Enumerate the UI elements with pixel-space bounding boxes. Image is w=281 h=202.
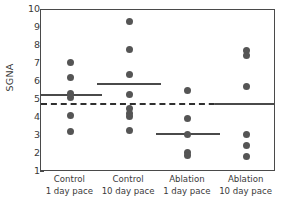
y-tick-5: 5: [22, 94, 40, 104]
x-label-group-2: Ablation1 day pace: [158, 174, 217, 197]
x-label-line2: 1 day pace: [158, 186, 217, 198]
chart-figure: SGNA 12345678910 Control1 day paceContro…: [0, 0, 281, 202]
data-point: [67, 59, 74, 66]
x-label-line1: Control: [54, 174, 85, 184]
data-point: [67, 94, 74, 101]
data-point: [126, 91, 133, 98]
y-tick-4: 4: [22, 112, 40, 122]
data-point: [243, 153, 250, 160]
x-label-group-1: Control10 day pace: [99, 174, 158, 197]
plot-area: [40, 9, 275, 171]
data-point: [126, 18, 133, 25]
x-label-line2: 10 day pace: [99, 186, 158, 198]
data-point: [184, 152, 191, 159]
x-label-line2: 1 day pace: [40, 186, 99, 198]
y-axis-tick-labels: 12345678910: [18, 9, 40, 171]
x-label-line1: Control: [113, 174, 144, 184]
data-point: [184, 115, 191, 122]
data-point: [243, 131, 250, 138]
data-point: [243, 142, 250, 149]
y-tick-3: 3: [22, 130, 40, 140]
y-tick-8: 8: [22, 40, 40, 50]
x-label-line1: Ablation: [169, 174, 204, 184]
data-point: [126, 113, 133, 120]
mean-line-group-3: [215, 103, 275, 105]
data-point: [243, 83, 250, 90]
mean-line-group-1: [97, 83, 161, 85]
x-label-group-3: Ablation10 day pace: [216, 174, 275, 197]
data-point: [184, 87, 191, 94]
y-tick-6: 6: [22, 76, 40, 86]
x-label-line1: Ablation: [228, 174, 263, 184]
data-point: [184, 131, 191, 138]
y-tick-9: 9: [22, 22, 40, 32]
data-point: [126, 71, 133, 78]
y-tick-10: 10: [22, 4, 40, 14]
x-label-line2: 10 day pace: [216, 186, 275, 198]
data-point: [126, 46, 133, 53]
y-axis-title: SGNA: [4, 48, 15, 108]
y-tick-mark-1: [40, 171, 44, 172]
y-tick-7: 7: [22, 58, 40, 68]
data-point: [243, 52, 250, 59]
data-point: [126, 127, 133, 134]
data-point: [67, 74, 74, 81]
x-axis-tick-labels: Control1 day paceControl10 day paceAblat…: [40, 174, 275, 202]
x-label-group-0: Control1 day pace: [40, 174, 99, 197]
data-point: [67, 128, 74, 135]
y-tick-2: 2: [22, 148, 40, 158]
data-point: [67, 112, 74, 119]
y-tick-1: 1: [22, 166, 40, 176]
